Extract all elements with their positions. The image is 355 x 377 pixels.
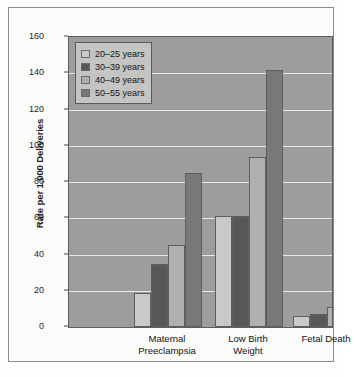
bar [266, 70, 283, 327]
legend-item: 20–25 years [81, 47, 145, 60]
bar-group [215, 37, 283, 327]
legend-swatch-icon [81, 50, 90, 58]
bar [134, 293, 151, 327]
legend-swatch-icon [81, 76, 90, 84]
legend-label: 30–39 years [95, 62, 145, 72]
bar [293, 316, 310, 327]
y-axis-tick-label: 80 [14, 176, 44, 186]
legend-item: 50–55 years [81, 86, 145, 99]
legend-item: 40–49 years [81, 73, 145, 86]
figure-frame: Rate per 1,000 Deliveries 02040608010012… [8, 7, 334, 362]
legend-label: 20–25 years [95, 49, 145, 59]
y-axis-title: Rate per 1,000 Deliveries [34, 99, 45, 249]
plot-area: 20–25 years30–39 years40–49 years50–55 y… [68, 36, 333, 328]
bar-group [293, 37, 333, 327]
legend-item: 30–39 years [81, 60, 145, 73]
y-axis-tick-label: 20 [14, 285, 44, 295]
bar [327, 307, 333, 327]
bar [310, 314, 327, 327]
legend-swatch-icon [81, 63, 90, 71]
bar [249, 157, 266, 327]
legend-swatch-icon [81, 89, 90, 97]
bar [232, 216, 249, 327]
bar [168, 245, 185, 327]
y-axis-tick-label: 160 [14, 31, 44, 41]
legend: 20–25 years30–39 years40–49 years50–55 y… [75, 42, 152, 104]
y-axis-tick-label: 140 [14, 67, 44, 77]
bar [151, 264, 168, 327]
category-label-line: Fetal Death [276, 333, 355, 345]
bar [215, 216, 232, 327]
y-axis-tick-label: 0 [14, 321, 44, 331]
legend-label: 50–55 years [95, 88, 145, 98]
category-label-line: Weight [198, 345, 298, 357]
bar [185, 173, 202, 327]
y-axis-tick-label: 60 [14, 212, 44, 222]
y-axis-tick-label: 120 [14, 104, 44, 114]
category-label: Fetal Death [276, 333, 355, 345]
y-axis-tick-label: 100 [14, 140, 44, 150]
y-axis-tick-label: 40 [14, 249, 44, 259]
legend-label: 40–49 years [95, 75, 145, 85]
